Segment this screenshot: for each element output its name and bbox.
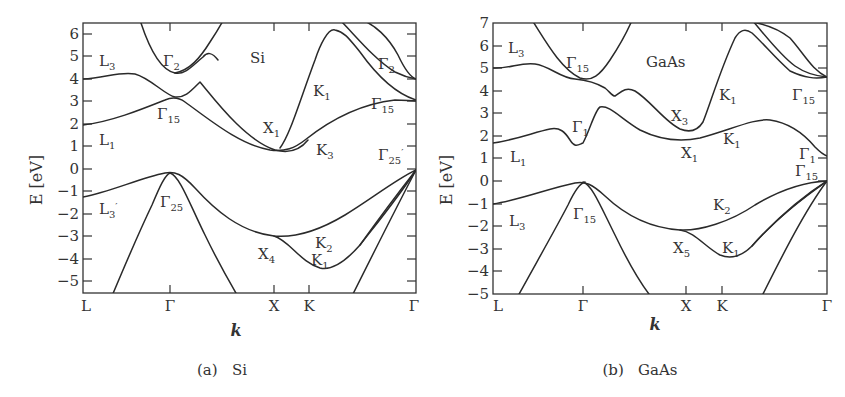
svg-text:5: 5 bbox=[69, 47, 79, 65]
si-y-tick-labels: 6 5 4 3 2 1 0 −1 −2 −3 −4 −5 bbox=[57, 25, 79, 290]
svg-text:2: 2 bbox=[69, 115, 79, 133]
svg-text:K: K bbox=[716, 297, 728, 315]
svg-text:X: X bbox=[681, 297, 692, 315]
si-material-label: Si bbox=[250, 49, 265, 67]
gaas-x-tick-labels: L Γ X K Γ bbox=[493, 297, 832, 315]
svg-text:X: X bbox=[269, 297, 280, 315]
si-caption: (a) Si bbox=[197, 361, 247, 379]
svg-text:1: 1 bbox=[479, 149, 489, 167]
gaas-caption: (b) GaAs bbox=[602, 361, 677, 379]
svg-text:7: 7 bbox=[479, 14, 489, 32]
svg-text:Γ15: Γ15 bbox=[157, 105, 180, 125]
svg-text:Γ15: Γ15 bbox=[573, 205, 596, 225]
svg-text:−1: −1 bbox=[467, 195, 489, 213]
svg-text:3: 3 bbox=[69, 92, 79, 110]
band-structure-figure: 6 5 4 3 2 1 0 −1 −2 −3 −4 −5 L Γ X K Γ E… bbox=[0, 0, 845, 397]
svg-text:K3: K3 bbox=[316, 141, 334, 161]
svg-text:K2: K2 bbox=[713, 196, 731, 216]
svg-text:X5: X5 bbox=[673, 239, 690, 259]
svg-text:L1: L1 bbox=[510, 148, 526, 168]
gaas-material-label: GaAs bbox=[646, 53, 685, 71]
gaas-y-axis-label: E [eV] bbox=[437, 155, 456, 205]
si-x-axis-label: k bbox=[230, 321, 241, 340]
svg-text:Γ15: Γ15 bbox=[792, 86, 815, 106]
gaas-x-axis-label: k bbox=[649, 315, 660, 334]
svg-text:5: 5 bbox=[479, 59, 489, 77]
svg-text:X1: X1 bbox=[263, 119, 280, 139]
svg-text:−3: −3 bbox=[57, 227, 79, 245]
svg-text:K1: K1 bbox=[723, 130, 741, 150]
svg-text:−2: −2 bbox=[57, 205, 79, 223]
svg-text:4: 4 bbox=[69, 70, 79, 88]
si-band-labels: L3 Γ2 Si Γ15 L1 X1 K1 K3 Γ2 Γ15 Γ25′ L3′… bbox=[99, 49, 404, 271]
svg-text:−5: −5 bbox=[467, 285, 489, 303]
svg-text:K1: K1 bbox=[311, 251, 329, 271]
svg-text:Γ25: Γ25 bbox=[160, 193, 183, 213]
svg-text:Γ2: Γ2 bbox=[378, 55, 395, 75]
si-x-tick-labels: L Γ X K Γ bbox=[81, 297, 419, 315]
svg-text:K: K bbox=[303, 297, 315, 315]
svg-text:Γ: Γ bbox=[578, 297, 588, 315]
svg-text:X4: X4 bbox=[258, 245, 275, 265]
svg-text:Γ15: Γ15 bbox=[371, 95, 394, 115]
svg-text:Γ2: Γ2 bbox=[163, 52, 180, 72]
svg-text:6: 6 bbox=[69, 25, 79, 43]
svg-text:4: 4 bbox=[479, 82, 489, 100]
svg-text:1: 1 bbox=[69, 137, 79, 155]
svg-text:L1: L1 bbox=[99, 131, 115, 151]
svg-text:−5: −5 bbox=[57, 272, 79, 290]
svg-text:3: 3 bbox=[479, 104, 489, 122]
svg-text:Γ: Γ bbox=[822, 297, 832, 315]
svg-text:−1: −1 bbox=[57, 182, 79, 200]
svg-text:X3: X3 bbox=[671, 107, 688, 127]
svg-text:K1: K1 bbox=[313, 82, 331, 102]
svg-text:0: 0 bbox=[69, 160, 79, 178]
si-y-axis-label: E [eV] bbox=[27, 155, 46, 205]
gaas-plot: 7 6 5 4 3 2 1 0 −1 −2 −3 −4 −5 L Γ X K Γ… bbox=[437, 14, 832, 379]
svg-text:L: L bbox=[493, 297, 503, 315]
svg-text:Γ15: Γ15 bbox=[566, 54, 589, 74]
svg-text:−4: −4 bbox=[467, 262, 489, 280]
svg-text:2: 2 bbox=[479, 127, 489, 145]
svg-text:L3′: L3′ bbox=[99, 200, 118, 220]
svg-text:K1: K1 bbox=[722, 239, 740, 259]
svg-text:Γ15: Γ15 bbox=[795, 162, 818, 182]
svg-text:K1: K1 bbox=[719, 86, 737, 106]
svg-text:−3: −3 bbox=[467, 240, 489, 258]
svg-text:−2: −2 bbox=[467, 217, 489, 235]
si-plot: 6 5 4 3 2 1 0 −1 −2 −3 −4 −5 L Γ X K Γ E… bbox=[27, 15, 419, 379]
svg-text:Γ25′: Γ25′ bbox=[378, 146, 404, 166]
svg-text:L3: L3 bbox=[508, 39, 524, 59]
svg-text:Γ: Γ bbox=[165, 297, 175, 315]
svg-text:L: L bbox=[81, 297, 91, 315]
svg-text:0: 0 bbox=[479, 172, 489, 190]
svg-text:Γ: Γ bbox=[409, 297, 419, 315]
svg-text:Γ1: Γ1 bbox=[572, 118, 589, 138]
svg-text:6: 6 bbox=[479, 37, 489, 55]
svg-text:L3: L3 bbox=[509, 212, 525, 232]
svg-text:−4: −4 bbox=[57, 250, 79, 268]
svg-text:L3: L3 bbox=[99, 52, 115, 72]
svg-text:X1: X1 bbox=[681, 144, 698, 164]
gaas-y-tick-labels: 7 6 5 4 3 2 1 0 −1 −2 −3 −4 −5 bbox=[467, 14, 489, 303]
